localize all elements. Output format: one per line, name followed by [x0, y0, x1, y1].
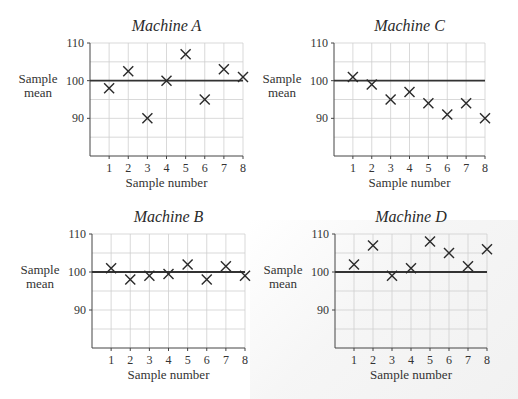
y-tick-label: 100: [311, 265, 329, 279]
y-tick-label: 110: [68, 227, 86, 241]
chart-title: Machine C: [373, 17, 445, 34]
y-tick-label: 110: [66, 36, 84, 50]
x-tick-label: 7: [465, 353, 471, 367]
panel-machine-d: 9010011012345678Machine DSample numberSa…: [264, 208, 493, 382]
y-tick-label: 90: [74, 303, 86, 317]
x-tick-label: 5: [425, 161, 431, 175]
data-points: [349, 237, 492, 281]
x-tick-label: 7: [463, 161, 469, 175]
x-tick-label: 2: [127, 353, 133, 367]
x-tick-label: 5: [183, 161, 189, 175]
x-tick-label: 1: [351, 353, 357, 367]
gridlines: [90, 43, 243, 156]
x-tick-label: 4: [407, 161, 413, 175]
y-tick-label: 100: [66, 74, 84, 88]
y-axis-label: Samplemean: [263, 71, 302, 100]
x-tick-label: 5: [427, 353, 433, 367]
x-tick-label: 3: [388, 161, 394, 175]
x-tick-label: 6: [204, 353, 210, 367]
x-tick-label: 7: [223, 353, 229, 367]
x-tick-label: 8: [484, 353, 490, 367]
chart-title: Machine D: [374, 208, 447, 225]
panel-machine-b: 9010011012345678Machine BSample numberSa…: [21, 208, 251, 382]
y-axis-label: Samplemean: [19, 71, 58, 100]
x-tick-label: 3: [389, 353, 395, 367]
x-tick-label: 6: [202, 161, 208, 175]
x-tick-label: 6: [446, 353, 452, 367]
x-axis-label: Sample number: [128, 367, 211, 382]
data-points: [104, 49, 248, 123]
gridlines: [92, 234, 245, 348]
x-axis-label: Sample number: [370, 367, 453, 382]
data-points: [348, 72, 490, 123]
x-tick-label: 3: [144, 161, 150, 175]
panel-machine-a: 9010011012345678Machine ASample numberSa…: [19, 17, 249, 190]
x-tick-label: 7: [221, 161, 227, 175]
chart-title: Machine A: [131, 17, 202, 34]
y-tick-label: 100: [68, 265, 86, 279]
x-tick-label: 1: [350, 161, 356, 175]
y-tick-label: 90: [316, 111, 328, 125]
x-tick-label: 3: [146, 353, 152, 367]
y-tick-label: 110: [310, 36, 328, 50]
chart-title: Machine B: [133, 208, 204, 225]
x-axis-label: Sample number: [126, 175, 209, 190]
y-axis-label: Samplemean: [21, 262, 60, 291]
x-tick-label: 1: [106, 161, 112, 175]
x-tick-label: 2: [125, 161, 131, 175]
x-tick-label: 5: [185, 353, 191, 367]
x-axis-label: Sample number: [369, 175, 452, 190]
y-tick-label: 110: [311, 227, 329, 241]
x-tick-label: 2: [369, 161, 375, 175]
x-tick-label: 2: [370, 353, 376, 367]
x-tick-label: 6: [444, 161, 450, 175]
x-tick-label: 4: [164, 161, 170, 175]
machine-control-charts: 9010011012345678Machine ASample numberSa…: [0, 0, 518, 399]
y-tick-label: 100: [310, 74, 328, 88]
y-axis-label: Samplemean: [264, 262, 303, 291]
x-tick-label: 8: [240, 161, 246, 175]
x-tick-label: 1: [108, 353, 114, 367]
x-tick-label: 4: [166, 353, 172, 367]
panel-machine-c: 9010011012345678Machine CSample numberSa…: [263, 17, 491, 190]
gridlines: [335, 234, 487, 348]
y-tick-label: 90: [72, 111, 84, 125]
y-tick-label: 90: [317, 303, 329, 317]
x-tick-label: 8: [242, 353, 248, 367]
x-tick-label: 8: [482, 161, 488, 175]
x-tick-label: 4: [408, 353, 414, 367]
